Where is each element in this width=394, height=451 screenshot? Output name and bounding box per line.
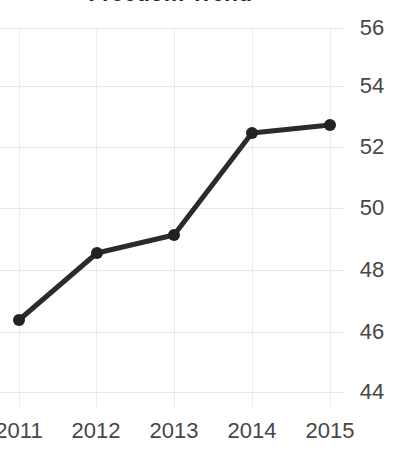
line-chart: Freedom Trend 56545250484644 20112012201… [0, 0, 394, 451]
data-point-marker [13, 314, 25, 326]
x-axis-tick-label: 2012 [58, 420, 134, 442]
y-axis-tick-label: 50 [352, 197, 392, 219]
data-point-marker [324, 119, 336, 131]
x-axis-tick-label: 2014 [214, 420, 290, 442]
x-axis-tick-label: 2013 [136, 420, 212, 442]
y-axis-tick-label: 56 [352, 17, 392, 39]
plot-area: 56545250484644 20112012201320142015 [0, 0, 394, 451]
series-line-freedom-trend [19, 125, 330, 320]
data-point-marker [168, 229, 180, 241]
data-point-marker [246, 127, 258, 139]
y-axis-tick-label: 48 [352, 259, 392, 281]
x-axis-tick-label: 2011 [0, 420, 57, 442]
y-axis-tick-label: 54 [352, 75, 392, 97]
data-point-marker [91, 247, 103, 259]
data-series-layer [0, 0, 394, 451]
y-axis-tick-label: 46 [352, 321, 392, 343]
y-axis-tick-label: 52 [352, 136, 392, 158]
y-axis-tick-label: 44 [352, 381, 392, 403]
x-axis-tick-label: 2015 [292, 420, 368, 442]
series-markers [13, 119, 336, 326]
